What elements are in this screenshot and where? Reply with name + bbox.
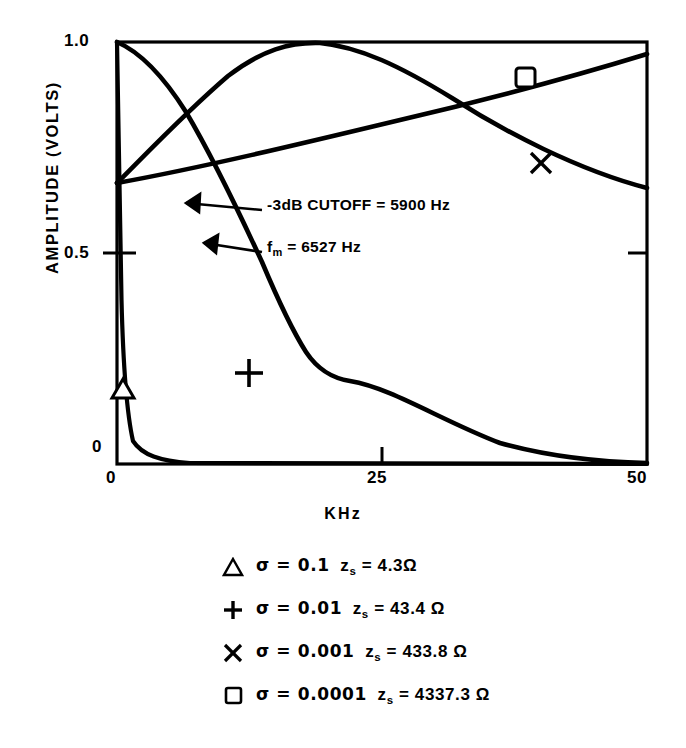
annotation-arrow-cutoff (186, 194, 262, 212)
annotation-fm-subscript: m (272, 246, 282, 258)
legend-row: σ = 0.1 zs = 4.3Ω (0, 545, 686, 588)
x-tick-label-50: 50 (627, 468, 647, 488)
legend-row: σ = 0.01 zs = 43.4 Ω (0, 588, 686, 631)
legend-z-value: = 4.3Ω (362, 556, 418, 575)
y-tick-label-0: 0 (92, 437, 102, 457)
legend-z-subscript: s (349, 566, 356, 578)
square-marker (516, 68, 535, 87)
legend-label: σ = 0.001 zs = 433.8 Ω (256, 641, 468, 663)
legend-label: σ = 0.0001 zs = 4337.3 Ω (256, 684, 490, 706)
legend-z-subscript: s (387, 695, 394, 707)
legend-row: σ = 0.0001 zs = 4337.3 Ω (0, 674, 686, 717)
legend-z-value: = 4337.3 Ω (399, 685, 490, 704)
annotation-fm-value: = 6527 Hz (287, 238, 361, 255)
y-tick-label-0.5: 0.5 (64, 243, 89, 263)
x-marker-icon (222, 642, 256, 664)
y-axis-title: AMPLITUDE (VOLTS) (43, 48, 62, 308)
x-marker (531, 153, 551, 173)
legend-sigma-value: σ = 0.01 (256, 598, 342, 618)
series-sigma-0p0001 (117, 54, 647, 183)
legend-label: σ = 0.01 zs = 43.4 Ω (256, 598, 445, 620)
plus-marker (235, 359, 263, 387)
y-tick-label-1.0: 1.0 (64, 31, 89, 51)
legend-sigma-value: σ = 0.001 (256, 641, 355, 661)
legend-z-subscript: s (362, 609, 369, 621)
legend-z-symbol: z (365, 642, 374, 661)
legend-z-subscript: s (374, 652, 381, 664)
triangle-marker (112, 379, 134, 398)
x-tick-label-0: 0 (106, 468, 116, 488)
x-tick-label-25: 25 (367, 468, 387, 488)
legend-z-value: = 43.4 Ω (374, 599, 445, 618)
legend-z-symbol: z (378, 685, 387, 704)
legend-z-value: = 433.8 Ω (387, 642, 468, 661)
legend-sigma-value: σ = 0.1 (256, 555, 330, 575)
legend-label: σ = 0.1 zs = 4.3Ω (256, 555, 417, 577)
series-sigma-0p1 (112, 42, 647, 464)
legend: σ = 0.1 zs = 4.3Ω σ = 0.01 zs = 43.4 Ω (0, 545, 686, 717)
annotation-fm-label: fm = 6527 Hz (267, 238, 361, 258)
legend-row: σ = 0.001 zs = 433.8 Ω (0, 631, 686, 674)
annotation-cutoff-label: -3dB CUTOFF = 5900 Hz (267, 196, 450, 214)
figure-container: AMPLITUDE (VOLTS) KHz 1.0 0.5 0 0 25 50 … (0, 0, 686, 748)
triangle-marker-icon (222, 557, 256, 577)
x-axis-title: KHz (0, 505, 686, 523)
legend-z-symbol: z (353, 599, 362, 618)
plus-marker-icon (222, 599, 256, 621)
square-marker-icon (222, 686, 256, 706)
legend-sigma-value: σ = 0.0001 (256, 684, 367, 704)
